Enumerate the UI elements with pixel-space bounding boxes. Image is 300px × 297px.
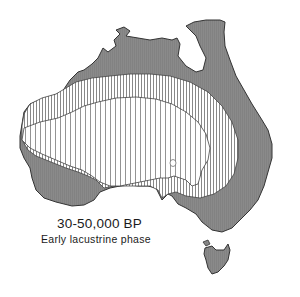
tasmania [204,244,230,274]
australia-map [0,0,300,297]
lake-eyre-marker [170,160,176,167]
map-title: 30-50,000 BP [57,216,300,231]
map-subtitle: Early lacustrine phase [41,233,300,245]
